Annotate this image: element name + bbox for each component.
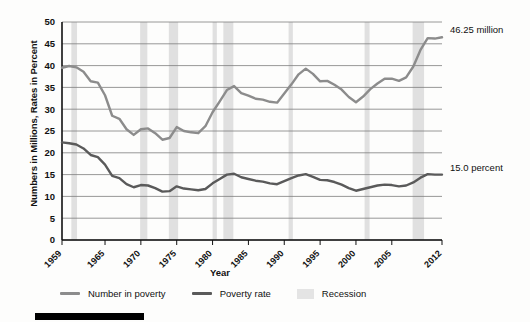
y-tick-label: 30 [44,104,55,115]
chart-legend: Number in poverty Poverty rate Recession [60,288,480,299]
y-tick-label: 20 [44,147,55,158]
x-tick-label: 1965 [85,248,106,269]
legend-swatch-box-recession [297,289,314,299]
y-tick-label: 10 [44,191,55,202]
y-tick-label: 5 [50,213,56,224]
y-tick-label: 25 [44,125,55,136]
legend-swatch-line-number-in-poverty [60,292,80,295]
legend-label-number-in-poverty: Number in poverty [88,288,166,299]
legend-item-recession: Recession [297,288,366,299]
y-tick-label: 45 [44,38,55,49]
x-tick-label: 1995 [300,248,321,269]
y-tick-label: 40 [44,60,55,71]
y-tick-label: 35 [44,82,55,93]
series-end-annotation: 15.0 percent [450,162,503,173]
poverty-chart-figure: Numbers in Millions, Rates in Percent Ye… [0,0,530,322]
series-end-annotation: 46.25 million [450,24,503,35]
y-tick-label: 50 [44,16,55,27]
series-line-poverty-rate [62,142,442,191]
bottom-rule-bar [35,313,144,320]
x-tick-label: 1959 [42,248,63,269]
x-tick-label: 1990 [264,248,285,269]
x-tick-label: 1975 [157,248,178,269]
series-line-number-in-poverty [62,37,442,139]
legend-label-recession: Recession [322,288,366,299]
x-tick-label: 2005 [372,248,393,269]
chart-plot-area: 0510152025303540455019591965197019751980… [0,0,530,290]
legend-item-number-in-poverty: Number in poverty [60,288,166,299]
x-tick-label: 1970 [121,248,142,269]
y-tick-label: 15 [44,169,55,180]
x-tick-label: 2012 [422,248,443,269]
y-tick-label: 0 [50,234,55,245]
x-tick-label: 1980 [193,248,214,269]
legend-label-poverty-rate: Poverty rate [220,288,271,299]
x-tick-label: 1985 [229,248,250,269]
legend-item-poverty-rate: Poverty rate [192,288,271,299]
x-tick-label: 2000 [336,248,357,269]
legend-swatch-line-poverty-rate [192,292,212,295]
